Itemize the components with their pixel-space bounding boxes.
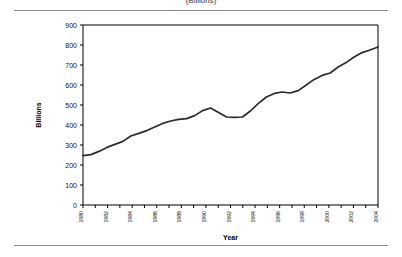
x-tick-label: 2000 (324, 211, 330, 223)
y-tick-label: 700 (65, 62, 77, 69)
y-tick-label: 500 (65, 102, 77, 109)
x-tick-label: 1992 (226, 211, 232, 223)
y-tick-label: 600 (65, 82, 77, 89)
x-tick-label: 1994 (250, 211, 256, 223)
x-tick-label: 1984 (127, 211, 133, 223)
y-tick-label: 0 (73, 202, 77, 209)
y-tick-label: 300 (65, 142, 77, 149)
x-tick-label: 1988 (176, 211, 182, 223)
x-axis-title: Year (223, 234, 238, 241)
y-tick-label: 200 (65, 162, 77, 169)
chart-page: (Billions) 0100200300400500600700800900 … (0, 0, 402, 257)
y-axis-ticks: 0100200300400500600700800900 (65, 22, 83, 209)
x-tick-label: 1982 (103, 211, 109, 223)
y-axis-title: Billions (35, 102, 42, 127)
y-tick-label: 800 (65, 42, 77, 49)
x-tick-label: 2002 (348, 211, 354, 223)
x-tick-label: 1986 (152, 211, 158, 223)
line-chart: 0100200300400500600700800900 19801982198… (0, 12, 402, 244)
x-tick-label: 1990 (201, 211, 207, 223)
data-series-line (83, 47, 378, 156)
x-tick-label: 1996 (275, 211, 281, 223)
top-rule (14, 10, 388, 11)
y-tick-label: 900 (65, 22, 77, 29)
y-tick-label: 400 (65, 122, 77, 129)
x-tick-label: 1998 (299, 211, 305, 223)
x-tick-label: 1980 (78, 211, 84, 223)
bottom-rule (14, 245, 388, 246)
page-title-clipped: (Billions) (0, 0, 402, 5)
y-tick-label: 100 (65, 182, 77, 189)
plot-frame (83, 25, 378, 205)
chart-svg: 0100200300400500600700800900 19801982198… (0, 12, 402, 244)
x-axis-ticks: 1980198219841986198819901992199419961998… (78, 205, 379, 223)
x-tick-label: 2004 (373, 211, 379, 223)
